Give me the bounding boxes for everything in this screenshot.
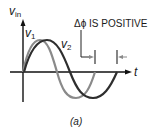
x-axis-label: t: [134, 65, 138, 79]
y-axis-label: vin: [9, 4, 21, 19]
y-axis-arrowhead-icon: [21, 19, 26, 26]
figure-caption: (a): [70, 116, 82, 127]
series-label-v2: v2: [61, 37, 72, 52]
arrow-right-icon: [89, 55, 94, 59]
arrow-left-icon: [118, 55, 123, 59]
series-label-v1: v1: [25, 26, 36, 41]
x-axis-arrowhead-icon: [125, 70, 132, 75]
phase-diagram: vin t v1 v2 Δϕ IS POSITIVE (a): [0, 0, 153, 135]
annotation-text: Δϕ IS POSITIVE: [74, 18, 148, 29]
annotation-leader-line: [81, 30, 90, 57]
